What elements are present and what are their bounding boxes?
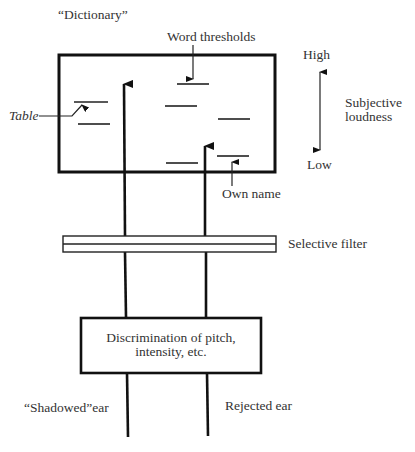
own-name-label: Own name bbox=[222, 186, 281, 201]
dictionary-label: “Dictionary” bbox=[58, 7, 128, 22]
shadowed-channel-middle bbox=[125, 252, 126, 317]
selective-filter bbox=[63, 236, 276, 252]
table-label: Table bbox=[9, 108, 39, 123]
diagram-canvas bbox=[0, 0, 415, 452]
shadowed-ear-label: “Shadowed”ear bbox=[24, 400, 109, 415]
discrimination-label-line2: intensity, etc. bbox=[81, 344, 261, 359]
subjective-loudness-label-line1: Subjective bbox=[345, 95, 402, 110]
word-threshold-marks bbox=[74, 84, 250, 163]
word-thresholds-label: Word thresholds bbox=[167, 29, 256, 44]
scale-low-label: Low bbox=[307, 157, 332, 172]
selective-filter-label: Selective filter bbox=[288, 236, 367, 251]
subjective-loudness-label-line2: loudness bbox=[345, 109, 392, 124]
shadowed-channel-upper bbox=[124, 84, 125, 236]
rejected-ear-label: Rejected ear bbox=[225, 398, 292, 413]
rejected-channel-lower bbox=[207, 373, 208, 436]
scale-high-label: High bbox=[303, 47, 330, 62]
discrimination-label-line1: Discrimination of pitch, bbox=[81, 330, 261, 345]
dictionary-box bbox=[59, 55, 275, 172]
shadowed-channel-lower bbox=[127, 373, 128, 437]
